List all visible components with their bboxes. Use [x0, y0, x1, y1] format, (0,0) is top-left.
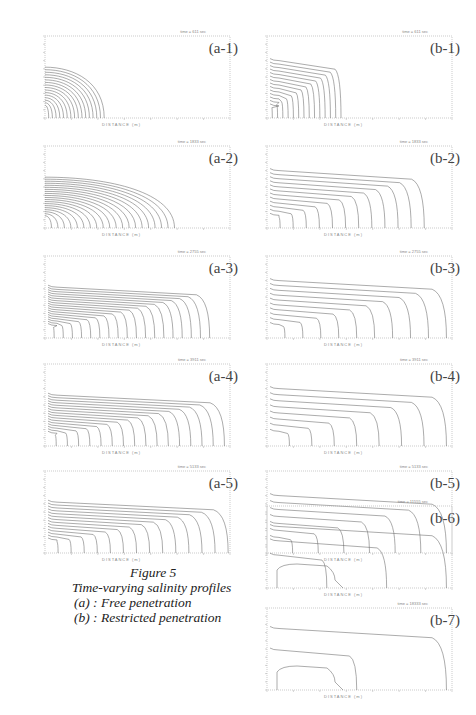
x-axis-label: DISTANCE (m): [324, 592, 363, 597]
caption-subtitle: Time-varying salinity profiles: [72, 580, 272, 595]
x-axis-label: DISTANCE (m): [102, 557, 141, 562]
x-axis-label: DISTANCE (m): [324, 232, 363, 237]
panel-label: (b-3): [430, 260, 460, 277]
x-axis-label: DISTANCE (m): [324, 122, 363, 127]
time-label: time = 1833 sec: [400, 139, 428, 144]
caption-legend-a: (a) : Free penetration: [72, 595, 272, 610]
time-label: time = 2755 sec: [178, 249, 206, 254]
time-label: time = 1833 sec: [178, 139, 206, 144]
x-axis-label: DISTANCE (m): [324, 694, 363, 699]
panel-b-1: time = 611 sec(b-1)DISTANCE (m): [232, 28, 468, 140]
caption-legend-b: (b) : Restricted penetration: [72, 610, 272, 625]
x-axis-label: DISTANCE (m): [102, 450, 141, 455]
panel-b-4: time = 3911 sec(b-4)DISTANCE (m): [232, 356, 468, 468]
time-label: time = 18333 sec: [397, 601, 428, 606]
x-axis-label: DISTANCE (m): [102, 122, 141, 127]
x-axis-label: DISTANCE (m): [102, 342, 141, 347]
caption-title: Figure 5: [72, 565, 272, 580]
time-label: time = 5133 sec: [178, 464, 206, 469]
panel-a-4: time = 3911 sec(a-4)DISTANCE (m): [10, 356, 246, 468]
panel-label: (b-2): [430, 150, 460, 167]
panel-b-3: time = 2755 sec(b-3)DISTANCE (m): [232, 248, 468, 360]
time-label: time = 11555 sec: [398, 499, 428, 504]
time-label: time = 2755 sec: [400, 249, 428, 254]
time-label: time = 3911 sec: [400, 357, 428, 362]
figure-caption: Figure 5 Time-varying salinity profiles …: [72, 565, 272, 625]
panel-label: (b-6): [430, 510, 460, 527]
x-axis-label: DISTANCE (m): [102, 232, 141, 237]
panel-label: (b-1): [430, 40, 460, 57]
panel-label: (b-4): [430, 368, 460, 385]
time-label: time = 5133 sec: [400, 464, 428, 469]
panel-label: (b-7): [430, 612, 460, 629]
panel-a-2: time = 1833 sec(a-2)DISTANCE (m): [10, 138, 246, 250]
panel-a-3: time = 2755 sec(a-3)DISTANCE (m): [10, 248, 246, 360]
panel-label: (b-5): [430, 475, 460, 492]
time-label: time = 611 sec: [180, 29, 206, 34]
time-label: time = 3911 sec: [178, 357, 206, 362]
x-axis-label: DISTANCE (m): [324, 342, 363, 347]
panel-a-5: time = 5133 sec(a-5)DISTANCE (m): [10, 463, 246, 575]
panel-b-2: time = 1833 sec(b-2)DISTANCE (m): [232, 138, 468, 250]
x-axis-label: DISTANCE (m): [324, 450, 363, 455]
panel-a-1: time = 611 sec(a-1)DISTANCE (m): [10, 28, 246, 140]
time-label: time = 611 sec: [402, 29, 428, 34]
